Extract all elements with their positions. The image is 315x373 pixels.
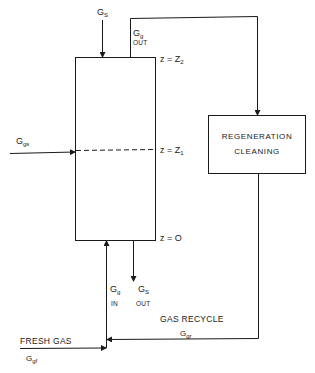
side-gas-arrow (10, 152, 75, 154)
level-z1-text: z = Z (160, 145, 180, 155)
gas-in-label: Gg (110, 285, 120, 295)
level-z1-label: z = Z1 (160, 146, 184, 156)
solid-out-sub: S (145, 289, 149, 295)
gas-in-main: G (110, 284, 117, 294)
regeneration-line1: REGENERATION (222, 129, 293, 144)
flow-diagram-lines (0, 0, 315, 373)
solid-out-label: GS (138, 285, 149, 295)
level-z1-dashed-line (76, 150, 155, 151)
gas-in-tag: IN (111, 301, 118, 308)
regeneration-line2: CLEANING (234, 144, 280, 159)
level-z0-label: z = O (160, 234, 182, 243)
level-z2-label: z = Z2 (160, 55, 184, 65)
side-gas-sub: gs (23, 141, 29, 147)
level-z1-sub: 1 (180, 150, 183, 156)
gas-out-label: Gg (133, 29, 143, 39)
solid-in-label: GS (97, 8, 108, 18)
gas-recycle-label: GAS RECYCLE (160, 315, 224, 324)
gas-out-main: G (133, 28, 140, 38)
fresh-gas-sub: gf (32, 358, 37, 364)
gas-recycle-sub: gr (186, 333, 191, 339)
solid-out-main: G (138, 284, 145, 294)
fresh-gas-arrow (20, 348, 106, 349)
solid-out-tag: OUT (136, 301, 151, 308)
side-gas-main: G (16, 136, 23, 146)
solid-in-sub: S (104, 12, 108, 18)
gas-recycle-symbol: Ggr (180, 330, 192, 339)
level-z2-sub: 2 (180, 59, 183, 65)
column-vessel (76, 58, 156, 241)
gas-out-tag: OUT (133, 40, 148, 47)
solid-in-main: G (97, 7, 104, 17)
fresh-gas-label: FRESH GAS (20, 337, 72, 346)
gas-in-sub: g (117, 289, 120, 295)
level-z2-text: z = Z (160, 54, 180, 64)
gas-out-line (131, 17, 258, 116)
side-gas-label: Ggs (16, 137, 29, 147)
regeneration-box-text: REGENERATION CLEANING (208, 115, 306, 173)
fresh-gas-symbol: Ggf (26, 355, 37, 364)
